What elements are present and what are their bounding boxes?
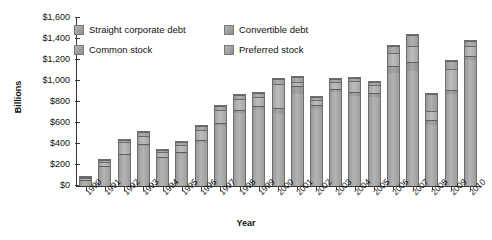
y-tick-text: $400: [50, 138, 76, 148]
legend-swatch-icon: [74, 45, 84, 55]
y-tick-text: $200: [50, 159, 76, 169]
bar-segment-common-stock: [465, 46, 476, 56]
legend-item-common-stock[interactable]: Common stock: [74, 40, 224, 60]
bar-segment-straight-corporate-debt: [292, 94, 303, 186]
y-tick-label: $800: [0, 96, 76, 108]
bar-1995[interactable]: [175, 141, 188, 186]
y-tick-label: $1,000: [0, 75, 76, 87]
bar-2002[interactable]: [310, 96, 323, 186]
bar-stack: [137, 131, 150, 186]
bar-2004[interactable]: [348, 77, 361, 186]
bar-stack: [310, 96, 323, 186]
bar-2009[interactable]: [445, 60, 458, 186]
y-tick-text: $0: [60, 180, 76, 190]
y-tick-label: $200: [0, 159, 76, 171]
legend-label: Common stock: [89, 45, 152, 55]
bar-stack: [252, 92, 265, 187]
bar-2000[interactable]: [272, 78, 285, 186]
bar-segment-convertible-debt: [292, 86, 303, 94]
bar-segment-common-stock: [215, 110, 226, 122]
bar-segment-common-stock: [446, 69, 457, 90]
bar-2007[interactable]: [406, 34, 419, 186]
legend-label: Straight corporate debt: [89, 25, 186, 35]
x-axis-title: Year: [0, 218, 492, 228]
bar-segment-straight-corporate-debt: [196, 143, 207, 186]
bar-stack: [464, 40, 477, 186]
y-tick-text: $1,200: [42, 54, 76, 64]
y-tick-text: $1,400: [42, 33, 76, 43]
bar-segment-convertible-debt: [407, 62, 418, 71]
bar-stack: [425, 93, 438, 186]
bar-segment-common-stock: [176, 145, 187, 152]
bar-segment-straight-corporate-debt: [234, 113, 245, 186]
legend-item-convertible-debt[interactable]: Convertible debt: [224, 20, 404, 40]
bar-2008[interactable]: [425, 93, 438, 186]
bar-segment-straight-corporate-debt: [215, 126, 226, 186]
bar-segment-straight-corporate-debt: [369, 97, 380, 186]
bar-segment-preferred-stock: [407, 35, 418, 46]
bar-segment-straight-corporate-debt: [311, 109, 322, 186]
y-tick-label: $0: [0, 180, 76, 192]
bar-stack: [195, 125, 208, 186]
bar-segment-straight-corporate-debt: [349, 96, 360, 187]
bar-stack: [406, 34, 419, 186]
y-tick-label: $1,400: [0, 33, 76, 45]
bar-segment-common-stock: [407, 46, 418, 62]
legend-label: Convertible debt: [239, 25, 308, 35]
bar-stack: [233, 94, 246, 186]
bar-2005[interactable]: [368, 81, 381, 186]
bar-segment-straight-corporate-debt: [426, 125, 437, 186]
bar-segment-straight-corporate-debt: [138, 146, 149, 186]
bar-2010[interactable]: [464, 40, 477, 186]
bar-segment-straight-corporate-debt: [388, 73, 399, 186]
bar-segment-common-stock: [426, 111, 437, 119]
bar-segment-common-stock: [330, 82, 341, 89]
bar-2001[interactable]: [291, 76, 304, 186]
bar-segment-common-stock: [119, 142, 130, 153]
bar-1999[interactable]: [252, 92, 265, 187]
bar-segment-straight-corporate-debt: [253, 109, 264, 186]
y-tick-label: $1,200: [0, 54, 76, 66]
bar-segment-common-stock: [253, 97, 264, 106]
bar-stack: [445, 60, 458, 186]
bar-segment-preferred-stock: [426, 94, 437, 112]
bar-segment-preferred-stock: [446, 61, 457, 69]
legend-swatch-icon: [224, 25, 234, 35]
bar-segment-common-stock: [369, 85, 380, 93]
bar-stack: [175, 141, 188, 186]
bar-2003[interactable]: [329, 78, 342, 186]
bar-segment-straight-corporate-debt: [407, 71, 418, 186]
bar-segment-convertible-debt: [388, 66, 399, 73]
legend-label: Preferred stock: [239, 45, 303, 55]
bar-segment-straight-corporate-debt: [330, 92, 341, 186]
y-tick-label: $600: [0, 117, 76, 129]
legend-swatch-icon: [224, 45, 234, 55]
legend-swatch-icon: [74, 25, 84, 35]
bar-segment-common-stock: [349, 81, 360, 92]
bar-segment-common-stock: [273, 84, 284, 108]
y-tick-text: $600: [50, 117, 76, 127]
bar-1996[interactable]: [195, 125, 208, 186]
bar-1993[interactable]: [137, 131, 150, 186]
bar-stack: [368, 81, 381, 186]
bar-segment-straight-corporate-debt: [465, 60, 476, 186]
legend-item-straight-corporate-debt[interactable]: Straight corporate debt: [74, 20, 224, 40]
legend-item-preferred-stock[interactable]: Preferred stock: [224, 40, 404, 60]
y-tick-text: $1,600: [42, 12, 76, 22]
bar-stack: [214, 105, 227, 186]
bar-1997[interactable]: [214, 105, 227, 186]
bar-stack: [329, 78, 342, 186]
bar-segment-common-stock: [138, 136, 149, 144]
bar-stack: [291, 76, 304, 186]
bar-segment-common-stock: [196, 130, 207, 140]
bar-stack: [272, 78, 285, 186]
chart-legend: Straight corporate debtConvertible debtC…: [74, 20, 404, 60]
bar-2006[interactable]: [387, 45, 400, 186]
bar-segment-straight-corporate-debt: [273, 114, 284, 186]
y-tick-label: $1,600: [0, 12, 76, 24]
bar-1998[interactable]: [233, 94, 246, 186]
bar-stack: [387, 45, 400, 186]
bar-chart: Billions $0$200$400$600$800$1,000$1,200$…: [0, 0, 492, 240]
bar-1992[interactable]: [118, 139, 131, 186]
bar-stack: [348, 77, 361, 186]
